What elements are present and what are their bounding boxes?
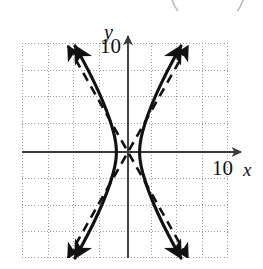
y-axis-tick-label: 10 <box>100 36 121 57</box>
x-axis-label: x <box>243 160 251 179</box>
x-axis-tick-label: 10 <box>212 158 233 179</box>
coordinate-plot <box>0 0 263 269</box>
cropped-label-fragment <box>172 0 243 11</box>
hyperbola-figure: y 10 10 x <box>0 0 263 269</box>
plot-gridlines <box>22 43 228 258</box>
